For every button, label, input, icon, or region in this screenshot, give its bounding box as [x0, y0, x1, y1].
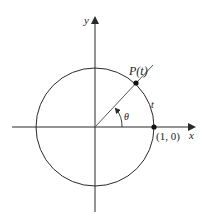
y-axis-label: y [83, 14, 89, 26]
point-one-zero [151, 124, 156, 129]
point-p-label: P(t) [128, 64, 148, 78]
unit-circle-diagram: y x P(t) t θ (1, 0) [0, 0, 208, 222]
angle-arc-icon [116, 109, 122, 127]
point-one-zero-label: (1, 0) [156, 130, 180, 143]
x-axis-label: x [188, 129, 194, 141]
angle-label: θ [124, 111, 129, 122]
point-p [133, 80, 138, 85]
arc-length-label: t [151, 99, 154, 110]
